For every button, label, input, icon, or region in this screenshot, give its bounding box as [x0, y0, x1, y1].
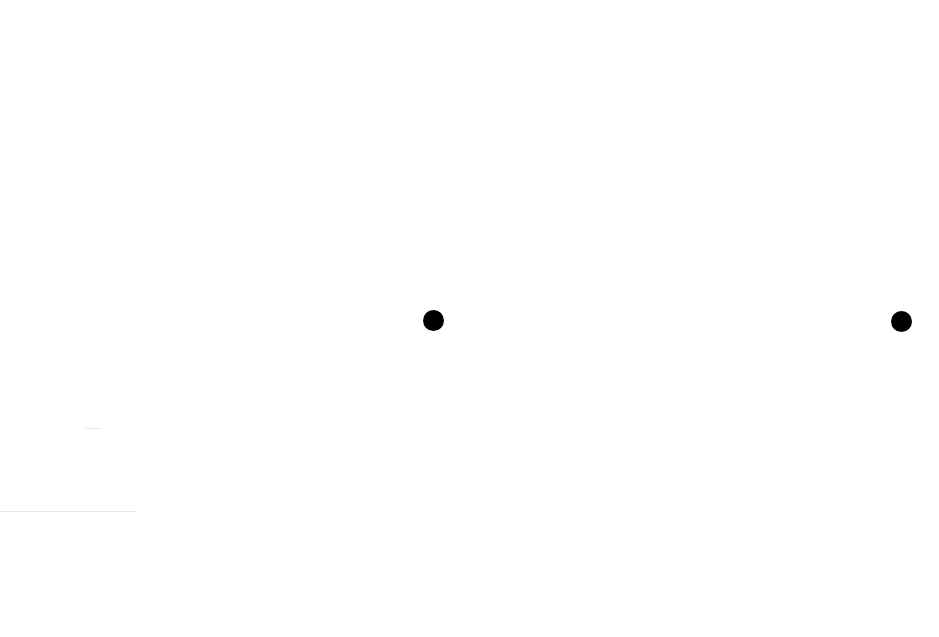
black-dot-right: [891, 311, 912, 332]
faint-line: [0, 511, 135, 512]
faint-mark: [86, 428, 100, 429]
blank-page: [0, 0, 939, 637]
black-dot-left: [423, 310, 444, 331]
